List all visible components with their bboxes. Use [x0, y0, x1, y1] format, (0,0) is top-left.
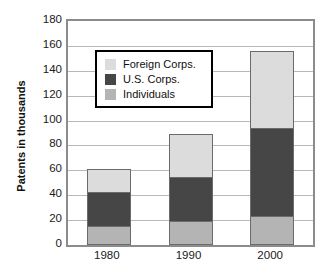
stacked-bar-chart: Patents in thousands 0204060801001201401…: [0, 0, 330, 275]
bar-segment: [170, 222, 212, 244]
x-tick-label: 1990: [159, 249, 219, 261]
bar-stack: [250, 51, 294, 245]
y-tick-label: 80: [22, 137, 62, 149]
legend-item: U.S. Corps.: [105, 72, 205, 86]
y-tick-label: 120: [22, 88, 62, 100]
y-tick-label: 180: [22, 13, 62, 25]
y-axis-tick-labels: 020406080100120140160180: [22, 19, 62, 243]
bar-group-2000: [250, 51, 294, 245]
legend-swatch-icon: [105, 89, 116, 100]
y-tick-label: 0: [22, 237, 62, 249]
x-tick-label: 1980: [77, 249, 137, 261]
legend-label: U.S. Corps.: [123, 73, 180, 85]
bar-segment: [251, 129, 293, 216]
x-tick-label: 2000: [240, 249, 300, 261]
chart-legend: Foreign Corps.U.S. Corps.Individuals: [95, 50, 213, 108]
y-tick-label: 60: [22, 162, 62, 174]
bar-segment: [88, 170, 130, 193]
bar-segment: [88, 227, 130, 244]
legend-label: Foreign Corps.: [123, 58, 196, 70]
bar-segment: [170, 135, 212, 178]
y-tick-label: 160: [22, 38, 62, 50]
bar-stack: [169, 134, 213, 245]
legend-item: Foreign Corps.: [105, 57, 205, 71]
bar-segment: [170, 178, 212, 222]
x-axis-tick-labels: 198019902000: [66, 249, 311, 269]
legend-swatch-icon: [105, 74, 116, 85]
bar-segment: [88, 193, 130, 227]
legend-label: Individuals: [123, 88, 175, 100]
y-tick-label: 40: [22, 187, 62, 199]
y-tick-label: 140: [22, 63, 62, 75]
bar-group-1980: [87, 169, 131, 245]
y-tick-label: 20: [22, 212, 62, 224]
bar-group-1990: [169, 134, 213, 245]
bar-stack: [87, 169, 131, 245]
legend-swatch-icon: [105, 59, 116, 70]
legend-item: Individuals: [105, 87, 205, 101]
bar-segment: [251, 217, 293, 244]
bar-segment: [251, 52, 293, 130]
y-tick-label: 100: [22, 113, 62, 125]
